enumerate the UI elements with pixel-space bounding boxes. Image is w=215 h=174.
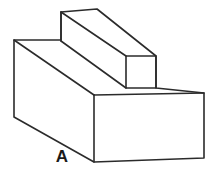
rib-end-face — [126, 56, 156, 88]
isometric-block-figure: A — [0, 0, 215, 174]
base-front-face — [94, 93, 204, 162]
drawing-canvas: A — [0, 0, 215, 174]
surface-label-a: A — [56, 147, 68, 166]
